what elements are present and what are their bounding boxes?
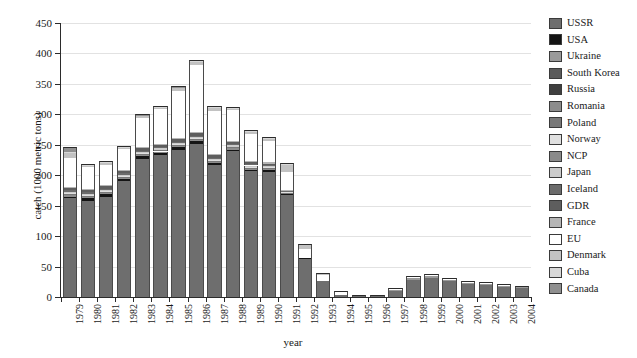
legend-item[interactable]: Russia xyxy=(549,81,635,98)
legend-item[interactable]: South Korea xyxy=(549,65,635,82)
legend-item[interactable]: GDR xyxy=(549,198,635,215)
legend-item[interactable]: Romania xyxy=(549,98,635,115)
bar-segment xyxy=(280,172,294,190)
bar-segment xyxy=(135,116,149,118)
bar[interactable] xyxy=(388,288,402,297)
legend-item[interactable]: NCP xyxy=(549,148,635,165)
bar[interactable] xyxy=(171,86,185,297)
bar-segment xyxy=(280,165,294,172)
bar-segment xyxy=(99,189,113,190)
legend-label: Norway xyxy=(567,134,601,145)
bar[interactable] xyxy=(135,114,149,297)
bar-segment xyxy=(406,278,420,280)
legend-swatch-icon xyxy=(549,250,562,261)
bar[interactable] xyxy=(334,292,348,297)
bar-segment xyxy=(171,146,185,147)
legend-item[interactable]: Iceland xyxy=(549,181,635,198)
bar[interactable] xyxy=(207,106,221,297)
bar-segment xyxy=(99,165,113,185)
legend-item[interactable]: France xyxy=(549,214,635,231)
bar-segment xyxy=(262,162,276,163)
bar-segment xyxy=(207,159,221,160)
bar[interactable] xyxy=(153,106,167,297)
bar[interactable] xyxy=(370,296,384,297)
legend-item[interactable]: Canada xyxy=(549,281,635,298)
legend-item[interactable]: USSR xyxy=(549,15,635,32)
bar-segment xyxy=(207,154,221,155)
x-axis-tick-label: 1999 xyxy=(436,304,447,324)
legend-item[interactable]: Cuba xyxy=(549,264,635,281)
bar[interactable] xyxy=(189,60,203,297)
legend-item[interactable]: Japan xyxy=(549,164,635,181)
legend-swatch-icon xyxy=(549,184,562,195)
bar-segment xyxy=(189,136,203,137)
bar-segment xyxy=(244,164,258,165)
legend-item[interactable]: Poland xyxy=(549,115,635,132)
bar-segment xyxy=(461,284,475,297)
y-axis-tick xyxy=(55,53,61,54)
legend-item[interactable]: Ukraine xyxy=(549,48,635,65)
bar-segment xyxy=(135,147,149,148)
bar[interactable] xyxy=(352,296,366,297)
bar-segment xyxy=(63,198,77,297)
x-axis-tick xyxy=(115,297,116,302)
bar-segment xyxy=(135,152,149,153)
bar-segment xyxy=(189,144,203,297)
bar-segment xyxy=(189,141,203,144)
bar-segment xyxy=(298,244,312,245)
bar-segment xyxy=(334,291,348,292)
bar[interactable] xyxy=(280,164,294,297)
bar-segment xyxy=(81,164,95,165)
legend-item[interactable]: USA xyxy=(549,32,635,49)
bar[interactable] xyxy=(99,161,113,297)
bar[interactable] xyxy=(461,282,475,297)
legend-item[interactable]: Denmark xyxy=(549,247,635,264)
bar[interactable] xyxy=(117,146,131,297)
bar[interactable] xyxy=(63,147,77,297)
bar[interactable] xyxy=(497,284,511,297)
y-axis-tick xyxy=(55,114,61,115)
x-axis-tick xyxy=(423,297,424,302)
bar-segment xyxy=(81,198,95,202)
x-axis-tick-label: 2003 xyxy=(508,304,519,324)
bar-segment xyxy=(370,295,384,296)
bar-segment xyxy=(63,188,77,190)
bar[interactable] xyxy=(262,137,276,297)
y-axis-tick-label: 200 xyxy=(18,169,52,181)
bar-segment xyxy=(171,91,185,138)
y-axis-tick xyxy=(55,145,61,146)
legend-swatch-icon xyxy=(549,18,562,29)
bar[interactable] xyxy=(442,279,456,297)
bar[interactable] xyxy=(479,282,493,297)
bar-segment xyxy=(207,165,221,297)
bar[interactable] xyxy=(316,273,330,297)
legend-label: Ukraine xyxy=(567,51,601,62)
bar[interactable] xyxy=(244,130,258,297)
legend-swatch-icon xyxy=(549,267,562,278)
y-axis-tick-label: 50 xyxy=(18,261,52,273)
bar[interactable] xyxy=(226,107,240,297)
bar[interactable] xyxy=(81,164,95,297)
x-axis-tick xyxy=(61,297,62,302)
bar-segment xyxy=(99,161,113,162)
bar[interactable] xyxy=(298,244,312,297)
x-axis-tick-label: 1993 xyxy=(327,304,338,324)
bar-segment xyxy=(63,194,77,195)
x-axis-tick xyxy=(350,297,351,302)
legend-item[interactable]: EU xyxy=(549,231,635,248)
legend-item[interactable]: Norway xyxy=(549,131,635,148)
bar-segment xyxy=(244,169,258,170)
bar[interactable] xyxy=(406,276,420,297)
bar[interactable] xyxy=(424,274,438,297)
legend-label: Canada xyxy=(567,284,599,295)
x-axis-tick-label: 1986 xyxy=(201,304,212,324)
legend-label: South Korea xyxy=(567,68,620,79)
bar-segment xyxy=(171,142,185,143)
y-axis-tick-label: 100 xyxy=(18,230,52,242)
legend-swatch-icon xyxy=(549,234,562,245)
legend-label: Russia xyxy=(567,84,595,95)
bar-segment xyxy=(135,151,149,152)
bar-segment xyxy=(226,144,240,145)
bar[interactable] xyxy=(515,286,529,297)
x-axis-tick-label: 1990 xyxy=(273,304,284,324)
